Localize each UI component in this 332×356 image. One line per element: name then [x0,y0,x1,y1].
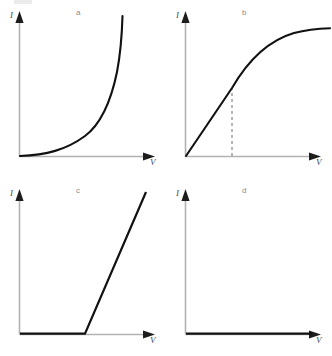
panel-letter-a: a [76,9,80,17]
curve-threshold [20,192,146,334]
x-axis-b [186,152,322,160]
panel-a-plot [0,0,166,178]
x-axis-label-b: V [316,158,322,167]
figure-panel-grid: I V a I V b [0,0,332,356]
panel-letter-c: c [76,187,80,195]
y-axis-d [181,189,189,335]
panel-c: I V c [0,178,166,356]
panel-letter-d: d [242,187,246,195]
y-axis-label-d: I [176,189,179,198]
curve-exponential [20,16,123,156]
y-axis-a [15,11,23,157]
panel-b-plot [166,0,332,178]
panel-b: I V b [166,0,332,178]
y-axis-c [15,189,23,335]
panel-d: I V d [166,178,332,356]
y-axis-label-a: I [10,11,13,20]
x-axis-label-d: V [316,336,322,345]
y-axis-b [181,11,189,157]
panel-c-plot [0,178,166,356]
y-axis-label-b: I [176,11,179,20]
panel-a: I V a [0,0,166,178]
panel-d-plot [166,178,332,356]
x-axis-label-a: V [150,158,156,167]
y-axis-label-c: I [10,189,13,198]
x-axis-label-c: V [150,336,156,345]
curve-saturation [186,28,330,156]
panel-letter-b: b [242,9,246,17]
